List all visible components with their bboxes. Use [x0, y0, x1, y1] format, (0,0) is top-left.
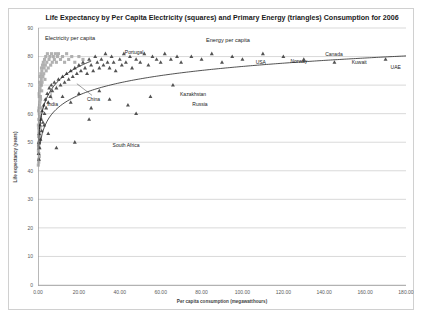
data-point-square [56, 55, 59, 58]
data-point-square [50, 52, 53, 55]
y-tick-label: 40 [27, 168, 33, 174]
data-point-triangle [97, 66, 101, 70]
data-point-square [55, 61, 58, 64]
data-point-square [61, 55, 64, 58]
data-point-square [41, 81, 44, 84]
chart-title: Life Expectancy by Per Capita Electricit… [45, 14, 398, 22]
data-point-triangle [126, 103, 130, 107]
country-label: USA [256, 59, 267, 65]
y-tick-label: 0 [30, 282, 33, 288]
y-tick-label: 30 [27, 196, 33, 202]
country-label: Kuwait [352, 59, 368, 65]
data-point-triangle [95, 60, 99, 64]
x-tick-label: 80.00 [195, 289, 208, 295]
data-point-triangle [159, 60, 163, 64]
x-tick-label: 100.00 [235, 289, 251, 295]
data-point-square [40, 78, 43, 81]
data-point-square [44, 64, 47, 67]
data-point-square [42, 61, 45, 64]
x-axis-title: Per capita consumption (megawatthours) [177, 299, 268, 304]
electricity-per-capita-points [37, 52, 85, 166]
data-point-triangle [83, 66, 87, 70]
data-point-triangle [220, 60, 224, 64]
data-point-square [65, 52, 68, 55]
data-point-triangle [114, 69, 118, 73]
data-point-triangle [97, 89, 101, 93]
energy-per-capita-points [37, 52, 388, 161]
gridlines-group [38, 28, 406, 285]
data-point-triangle [210, 52, 214, 56]
country-label: Canada [325, 51, 343, 57]
data-point-triangle [112, 60, 116, 64]
data-point-square [49, 64, 52, 67]
data-point-triangle [93, 54, 97, 58]
country-label: Portugal [125, 49, 144, 55]
data-point-triangle [59, 83, 63, 87]
data-point-square [39, 98, 42, 101]
data-point-square [38, 101, 41, 104]
data-point-triangle [91, 69, 95, 73]
data-point-triangle [87, 57, 91, 61]
data-point-triangle [108, 97, 112, 101]
data-point-triangle [106, 60, 110, 64]
data-point-triangle [61, 94, 65, 98]
data-point-square [52, 55, 55, 58]
data-point-square [77, 55, 80, 58]
data-point-triangle [54, 86, 58, 90]
data-point-square [40, 89, 43, 92]
data-point-triangle [69, 100, 73, 104]
data-point-triangle [138, 60, 142, 64]
data-point-triangle [332, 60, 336, 64]
data-point-triangle [89, 106, 93, 110]
data-point-triangle [87, 117, 91, 121]
data-point-square [44, 55, 47, 58]
data-point-triangle [46, 132, 50, 136]
data-point-triangle [169, 57, 173, 61]
data-point-triangle [99, 57, 103, 61]
data-point-triangle [71, 74, 75, 78]
data-point-triangle [130, 66, 134, 70]
data-point-square [45, 69, 48, 72]
series-label-energy: Energy per capita [206, 37, 251, 43]
x-tick-label: 160.00 [357, 289, 373, 295]
data-point-triangle [67, 77, 71, 81]
data-point-square [47, 66, 50, 69]
data-point-square [48, 55, 51, 58]
data-point-triangle [240, 57, 244, 61]
data-point-square [43, 66, 46, 69]
data-point-square [41, 75, 44, 78]
data-point-triangle [189, 54, 193, 58]
data-point-square [41, 64, 44, 67]
x-tick-label: 60.00 [154, 289, 167, 295]
data-point-triangle [148, 94, 152, 98]
country-label: Norway [290, 58, 307, 64]
electricity-trendline [38, 61, 91, 149]
data-point-square [39, 72, 42, 75]
data-point-square [51, 61, 54, 64]
data-point-square [54, 52, 57, 55]
data-point-square [39, 75, 42, 78]
y-tick-label: 70 [27, 82, 33, 88]
x-tick-label: 120.00 [276, 289, 292, 295]
data-point-square [38, 86, 41, 89]
data-point-triangle [134, 112, 138, 116]
data-point-square [39, 95, 42, 98]
x-tick-label: 140.00 [317, 289, 333, 295]
data-point-square [73, 61, 76, 64]
data-point-triangle [63, 80, 67, 84]
data-point-triangle [171, 83, 175, 87]
data-point-triangle [155, 57, 159, 61]
data-point-square [40, 66, 43, 69]
data-point-triangle [124, 60, 128, 64]
y-tick-label: 60 [27, 111, 33, 117]
y-tick-label: 50 [27, 139, 33, 145]
y-axis-tick-labels: 0102030405060708090 [27, 25, 33, 288]
data-point-triangle [54, 146, 58, 150]
data-point-square [38, 92, 41, 95]
country-annotations: IndiaChinaPortugalKazakhstanRussiaSouth … [47, 49, 401, 148]
data-point-square [63, 61, 66, 64]
x-tick-label: 0.00 [33, 289, 43, 295]
data-point-triangle [384, 57, 388, 61]
data-point-triangle [200, 57, 204, 61]
y-tick-label: 10 [27, 253, 33, 259]
